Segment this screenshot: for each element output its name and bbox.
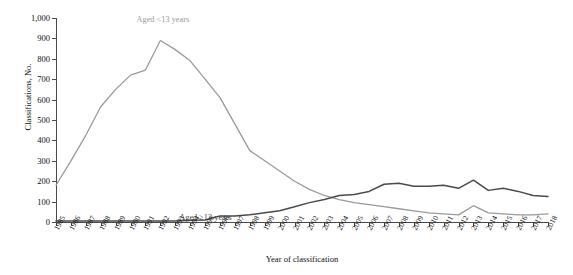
y-tick-label: 900 [37, 34, 50, 43]
line-chart: Classifications, No. 0100200300400500600… [0, 0, 573, 275]
y-tick-label: 100 [37, 197, 50, 206]
series-line [56, 40, 548, 214]
y-tick-label: 500 [37, 116, 50, 125]
y-tick-label: 700 [37, 75, 50, 84]
y-tick-label: 600 [37, 95, 50, 104]
series-lines [56, 18, 548, 222]
x-axis-title: Year of classification [56, 254, 548, 264]
y-tick-label: 800 [37, 55, 50, 64]
series-annotation-old: Aged ≥13 years [179, 214, 231, 222]
series-annotation-young: Aged <13 years [137, 16, 190, 24]
y-tick-label: 1,000 [31, 14, 50, 23]
series-line [56, 180, 548, 221]
y-axis-title: Classifications, No. [23, 17, 33, 177]
y-tick-label: 0 [46, 218, 50, 227]
y-tick-label: 400 [37, 136, 50, 145]
y-tick-label: 200 [37, 177, 50, 186]
y-tick-label: 300 [37, 157, 50, 166]
plot-area: 01002003004005006007008009001,000 [56, 18, 548, 222]
